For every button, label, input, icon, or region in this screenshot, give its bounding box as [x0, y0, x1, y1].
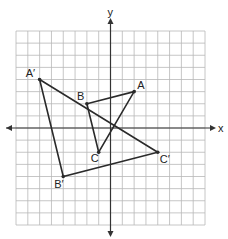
axes: xy: [6, 6, 224, 237]
vertex-point: [38, 78, 42, 82]
y-axis-arrow-up-icon: [108, 18, 114, 24]
y-axis-label: y: [108, 6, 114, 18]
coordinate-plane: xy ABCA′B′C′: [0, 0, 228, 239]
vertex-point: [85, 102, 89, 106]
x-axis-arrow-left-icon: [6, 125, 12, 131]
vertex-label: A′: [26, 67, 35, 79]
vertex-label: C′: [160, 153, 170, 165]
vertex-point: [132, 90, 136, 94]
vertex-label: A: [137, 79, 145, 91]
vertex-label: B: [77, 90, 84, 102]
x-axis-arrow-right-icon: [210, 125, 216, 131]
vertex-label: B′: [54, 178, 63, 190]
vertex-label: C: [91, 152, 99, 164]
y-axis-arrow-down-icon: [108, 231, 114, 237]
x-axis-label: x: [218, 122, 224, 134]
